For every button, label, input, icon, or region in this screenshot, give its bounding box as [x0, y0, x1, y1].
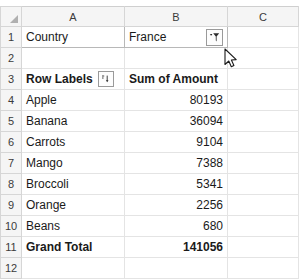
cell-c11[interactable]	[228, 237, 299, 258]
row-header-8[interactable]: 8	[1, 174, 22, 195]
table-row: 7 Mango 7388	[1, 153, 299, 174]
spreadsheet-grid[interactable]: A B C 1 Country France	[0, 6, 299, 278]
cell-a12[interactable]	[22, 258, 125, 279]
sort-filter-dropdown-icon[interactable]	[98, 71, 114, 87]
row-header-1[interactable]: 1	[1, 27, 22, 48]
table-row: 5 Banana 36094	[1, 111, 299, 132]
cell-c2[interactable]	[228, 48, 299, 69]
row-header-5[interactable]: 5	[1, 111, 22, 132]
cell-c5[interactable]	[228, 111, 299, 132]
cell-b4-item-amount[interactable]: 80193	[125, 90, 228, 111]
cell-c8[interactable]	[228, 174, 299, 195]
cell-c3[interactable]	[228, 69, 299, 90]
row-header-9[interactable]: 9	[1, 195, 22, 216]
table-row: 6 Carrots 9104	[1, 132, 299, 153]
row-header-2[interactable]: 2	[1, 48, 22, 69]
cell-a10-item-label[interactable]: Beans	[22, 216, 125, 237]
row-labels-text: Row Labels	[26, 72, 93, 86]
select-all-corner[interactable]	[1, 7, 22, 27]
sort-filter-dropdown-glyph	[101, 74, 111, 84]
row-header-6[interactable]: 6	[1, 132, 22, 153]
filter-selected-value: France	[129, 30, 166, 44]
cell-b7-item-amount[interactable]: 7388	[125, 153, 228, 174]
row-header-10[interactable]: 10	[1, 216, 22, 237]
table-row: 1 Country France	[1, 27, 299, 48]
cell-a1-filter-field[interactable]: Country	[22, 27, 125, 48]
row-header-3[interactable]: 3	[1, 69, 22, 90]
cell-c1[interactable]	[228, 27, 299, 48]
cell-a8-item-label[interactable]: Broccoli	[22, 174, 125, 195]
column-header-c[interactable]: C	[228, 7, 299, 27]
cell-b1-filter-value[interactable]: France	[125, 27, 228, 48]
cell-b3-value-header[interactable]: Sum of Amount	[125, 69, 228, 90]
cell-c12[interactable]	[228, 258, 299, 279]
cell-b11-grand-total-amount[interactable]: 141056	[125, 237, 228, 258]
table-row: 12	[1, 258, 299, 279]
cell-a6-item-label[interactable]: Carrots	[22, 132, 125, 153]
row-header-12[interactable]: 12	[1, 258, 22, 279]
cell-a5-item-label[interactable]: Banana	[22, 111, 125, 132]
cell-c6[interactable]	[228, 132, 299, 153]
table-row: 11 Grand Total 141056	[1, 237, 299, 258]
table-row: 2	[1, 48, 299, 69]
cell-c10[interactable]	[228, 216, 299, 237]
cell-a4-item-label[interactable]: Apple	[22, 90, 125, 111]
cell-c7[interactable]	[228, 153, 299, 174]
cell-b12[interactable]	[125, 258, 228, 279]
row-header-11[interactable]: 11	[1, 237, 22, 258]
cell-b9-item-amount[interactable]: 2256	[125, 195, 228, 216]
funnel-filter-icon[interactable]	[206, 29, 223, 46]
row-header-7[interactable]: 7	[1, 153, 22, 174]
cell-a3-row-labels-header[interactable]: Row Labels	[22, 69, 125, 90]
cell-a11-grand-total-label[interactable]: Grand Total	[22, 237, 125, 258]
table-row: 8 Broccoli 5341	[1, 174, 299, 195]
cell-b2[interactable]	[125, 48, 228, 69]
select-all-triangle-icon	[10, 15, 18, 23]
cell-c4[interactable]	[228, 90, 299, 111]
column-header-a[interactable]: A	[22, 7, 125, 27]
cell-c9[interactable]	[228, 195, 299, 216]
cell-a2[interactable]	[22, 48, 125, 69]
cell-b5-item-amount[interactable]: 36094	[125, 111, 228, 132]
cell-a9-item-label[interactable]: Orange	[22, 195, 125, 216]
cell-a7-item-label[interactable]: Mango	[22, 153, 125, 174]
cell-b6-item-amount[interactable]: 9104	[125, 132, 228, 153]
row-header-4[interactable]: 4	[1, 90, 22, 111]
column-header-row: A B C	[1, 7, 299, 27]
worksheet-table: A B C 1 Country France	[0, 6, 299, 279]
cell-b8-item-amount[interactable]: 5341	[125, 174, 228, 195]
column-header-b[interactable]: B	[125, 7, 228, 27]
table-row: 4 Apple 80193	[1, 90, 299, 111]
cell-b10-item-amount[interactable]: 680	[125, 216, 228, 237]
table-row: 9 Orange 2256	[1, 195, 299, 216]
table-row: 3 Row Labels Sum of Amount	[1, 69, 299, 90]
funnel-filter-glyph	[209, 32, 220, 43]
table-row: 10 Beans 680	[1, 216, 299, 237]
